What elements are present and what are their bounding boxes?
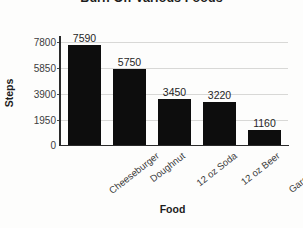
chart-screenshot: Burn Off Various Foods Steps 7800 5850 3… <box>0 0 303 228</box>
bar-12-oz-beer[interactable] <box>203 102 236 145</box>
x-cat-label-12-oz-soda: 12 oz Soda <box>194 150 239 188</box>
y-tick-label: 7800 <box>14 37 56 48</box>
plot-area: 7590 5750 3450 3220 1160 <box>61 42 288 145</box>
y-tick-label: 5850 <box>14 63 56 74</box>
bar-doughnut[interactable] <box>113 69 146 145</box>
bar-value-label: 5750 <box>118 56 141 68</box>
bar-value-label: 7590 <box>73 32 96 44</box>
x-axis-title: Food <box>0 203 303 215</box>
y-axis-tick-labels: 7800 5850 3900 1950 0 <box>10 0 56 228</box>
y-axis-line <box>59 36 61 146</box>
bar-garden-salad[interactable] <box>248 130 281 145</box>
x-cat-label-garden-salad: Garden Salad <box>286 150 303 195</box>
bar-cheeseburger[interactable] <box>68 45 101 145</box>
bar-value-label: 1160 <box>253 117 276 129</box>
y-tick-label: 0 <box>14 140 56 151</box>
bar-value-label: 3220 <box>208 89 231 101</box>
bar-value-label: 3450 <box>163 86 186 98</box>
x-axis-line <box>59 145 289 147</box>
x-cat-label-12-oz-beer: 12 oz Beer <box>239 150 282 187</box>
bar-12-oz-soda[interactable] <box>158 99 191 145</box>
y-tick-label: 1950 <box>14 115 56 126</box>
y-tick-label: 3900 <box>14 89 56 100</box>
